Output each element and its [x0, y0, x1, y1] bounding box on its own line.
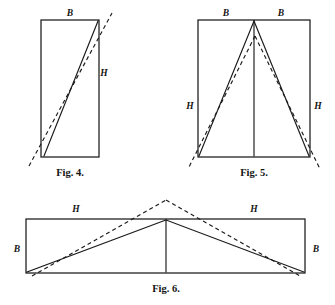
fig5-label-h-left: H: [185, 101, 194, 111]
fig5-triangle-left-side: [199, 21, 254, 156]
fig5-label-b-right: B: [277, 8, 284, 18]
figure-4-group: B H Fig. 4.: [29, 8, 112, 178]
fig6-label-b-left: B: [13, 244, 20, 254]
fig5-triangle-right-side: [254, 21, 309, 156]
fig4-caption: Fig. 4.: [56, 167, 84, 178]
fig6-label-h-right: H: [249, 204, 258, 214]
fig6-caption: Fig. 6.: [152, 283, 180, 294]
figure-6-group: H H B B Fig. 6.: [13, 200, 319, 294]
fig5-dashed-left: [189, 36, 255, 167]
fig5-label-b-left: B: [222, 8, 229, 18]
fig6-triangle-left-side: [27, 220, 166, 272]
fig4-label-b: B: [66, 8, 73, 18]
fig5-label-h-right: H: [313, 101, 322, 111]
fig6-dashed-right: [166, 200, 300, 276]
figures-svg: B H Fig. 4. B B H H Fig. 5.: [0, 0, 335, 305]
fig6-triangle-right-side: [166, 220, 304, 272]
fig4-label-h: H: [99, 68, 108, 78]
figure-sheet: B H Fig. 4. B B H H Fig. 5.: [0, 0, 335, 305]
figure-5-group: B B H H Fig. 5.: [185, 8, 322, 178]
fig6-label-h-left: H: [71, 204, 80, 214]
fig4-solid-diagonal: [44, 21, 98, 156]
fig6-dashed-left: [32, 200, 166, 276]
fig5-caption: Fig. 5.: [240, 167, 268, 178]
fig6-label-b-right: B: [312, 244, 319, 254]
